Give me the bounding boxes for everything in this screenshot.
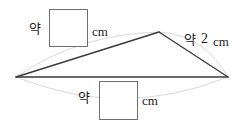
right-label-unit: cm — [213, 35, 229, 48]
bottom-label-answer-box[interactable] — [99, 81, 138, 120]
top-label-answer-box[interactable] — [49, 9, 88, 47]
right-label-value: 2 — [201, 32, 208, 46]
bottom-label-unit: cm — [142, 94, 158, 107]
triangle-outline — [16, 32, 228, 77]
bottom-label-approx-word: 약 — [78, 91, 90, 104]
top-label-approx-word: 약 — [29, 22, 41, 35]
figure-container: 약 cm 약 2 cm 약 cm — [0, 0, 252, 126]
right-label-approx-word: 약 — [184, 33, 196, 46]
top-label-unit: cm — [92, 25, 108, 38]
